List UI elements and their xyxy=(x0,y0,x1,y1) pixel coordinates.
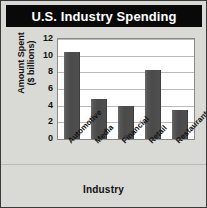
y-axis-tick-label: 6 xyxy=(33,84,53,93)
bar-series xyxy=(58,39,194,139)
y-axis-title-line-1: Amount Spent xyxy=(16,32,26,94)
y-axis-tick-labels: 121086420 xyxy=(33,32,53,144)
y-axis-tick-label: 12 xyxy=(33,34,53,43)
scan-artifact-line xyxy=(1,164,206,165)
x-axis-title: Industry xyxy=(1,184,206,195)
y-axis-tick-label: 4 xyxy=(33,100,53,109)
y-axis-tick-label: 0 xyxy=(33,134,53,143)
x-axis-tick-labels: AutomotiveMediaFinancialRetailRestaurant… xyxy=(57,139,193,185)
y-axis-tick-label: 2 xyxy=(33,117,53,126)
y-axis-tick-label: 10 xyxy=(33,50,53,59)
y-axis-tick-label: 8 xyxy=(33,67,53,76)
chart-title: U.S. Industry Spending xyxy=(31,10,176,23)
chart-figure: U.S. Industry Spending Amount Spent ($ b… xyxy=(0,0,207,208)
plot-area xyxy=(57,38,195,140)
